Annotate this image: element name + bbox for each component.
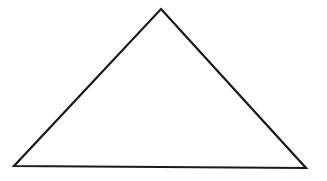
triangle-shape [14,9,306,168]
diagram-canvas [0,0,327,181]
triangle-figure [0,0,327,181]
